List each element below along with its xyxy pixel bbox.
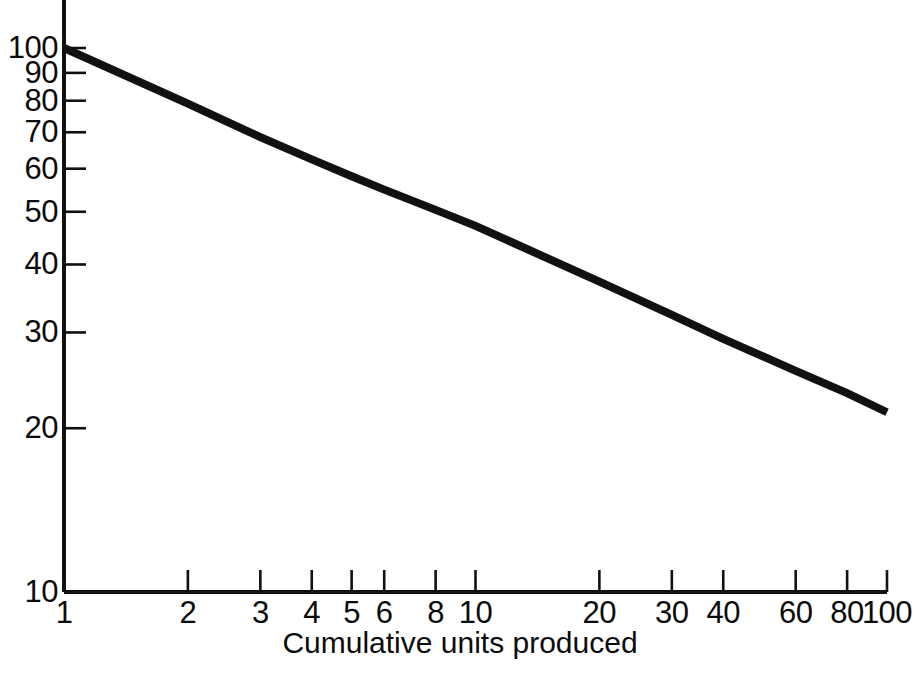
x-axis-title: Cumulative units produced xyxy=(0,626,920,660)
y-tick-label: 70 xyxy=(25,116,58,147)
x-tick-label: 10 xyxy=(416,597,536,628)
axes-group xyxy=(64,0,887,592)
x-tick-marks xyxy=(188,570,887,592)
y-tick-label: 40 xyxy=(25,248,58,279)
plot-area xyxy=(0,0,920,673)
y-tick-marks xyxy=(64,48,86,428)
x-tick-label: 1 xyxy=(4,597,124,628)
y-tick-label: 20 xyxy=(25,412,58,443)
y-tick-label: 100 xyxy=(8,32,58,63)
y-tick-label: 50 xyxy=(25,196,58,227)
y-tick-label: 30 xyxy=(25,316,58,347)
y-tick-label: 60 xyxy=(25,153,58,184)
series-line xyxy=(64,48,887,412)
x-tick-label: 100 xyxy=(827,597,920,628)
data-series-group xyxy=(64,48,887,412)
learning-curve-chart: 102030405060708090100 123456810203040608… xyxy=(0,0,920,673)
